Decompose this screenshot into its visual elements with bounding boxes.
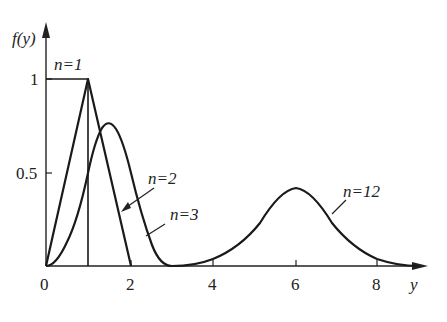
x-tick-0: 0 (40, 275, 49, 294)
y-tick-1: 1 (30, 70, 39, 89)
ticks (46, 79, 377, 266)
y-tick-0.5: 0.5 (16, 164, 37, 183)
curve-n12 (172, 188, 418, 266)
x-tick-6: 6 (291, 275, 300, 294)
y-axis-arrow-icon (42, 22, 50, 38)
x-tick-4: 4 (208, 275, 217, 294)
axes (46, 30, 420, 266)
x-tick-8: 8 (372, 275, 381, 294)
density-chart: 1 0.5 0 2 4 6 8 f(y) y n=1 n=2 n=3 n=12 (0, 0, 447, 322)
curves (46, 79, 418, 266)
x-axis-label: y (408, 275, 418, 294)
label-n3: n=3 (170, 205, 198, 224)
x-tick-2: 2 (126, 275, 135, 294)
label-n1: n=1 (54, 55, 82, 74)
label-n2: n=2 (148, 169, 177, 188)
label-n12: n=12 (343, 182, 380, 201)
n2-arrow-icon (121, 202, 131, 212)
annotation-leaders (124, 188, 346, 236)
curve-n3 (46, 123, 172, 266)
y-axis-label: f(y) (12, 29, 36, 48)
